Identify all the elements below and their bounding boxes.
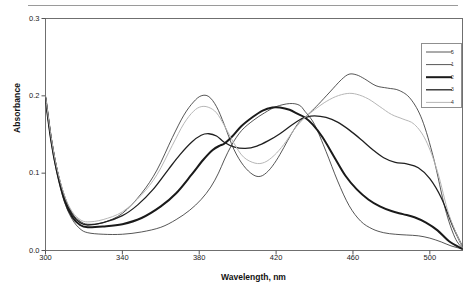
data-series-group <box>46 74 463 249</box>
legend-label-5: 5 <box>451 50 454 55</box>
plot-canvas <box>0 0 476 292</box>
absorbance-spectra-figure: Absorbance Wavelength, nm 0.00.10.20.3 3… <box>0 0 476 292</box>
series-line-2 <box>46 98 463 249</box>
legend-label-2: 2 <box>451 75 454 80</box>
legend-item-2[interactable]: 2 <box>422 71 463 84</box>
legend-label-4: 4 <box>451 100 454 105</box>
legend-item-5[interactable]: 5 <box>422 46 463 59</box>
axes-frame <box>46 19 463 251</box>
legend-item-1[interactable]: 1 <box>422 58 463 71</box>
series-line-1 <box>46 74 463 248</box>
legend-item-4[interactable]: 4 <box>422 96 463 109</box>
legend-label-3: 3 <box>451 87 454 92</box>
legend-item-3[interactable]: 3 <box>422 83 463 96</box>
legend[interactable]: 51234 <box>421 43 462 108</box>
axis-tick-marks <box>42 19 430 255</box>
legend-label-1: 1 <box>451 62 454 67</box>
